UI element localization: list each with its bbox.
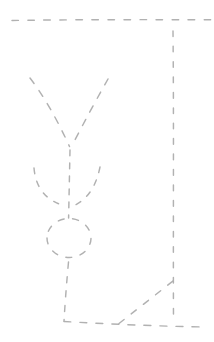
bottom-border-dashed-line — [64, 322, 207, 328]
diagonal-connector-line — [119, 281, 173, 324]
arrowhead-left-barb — [34, 168, 65, 206]
node-circle — [47, 219, 91, 258]
sketch-page — [0, 0, 214, 342]
dashed-sketch-svg — [0, 0, 214, 342]
arrow-shaft-line — [69, 150, 70, 218]
funnel-right-arm — [72, 79, 109, 147]
stem-line — [64, 262, 69, 321]
arrowhead-right-barb — [73, 167, 100, 206]
funnel-left-arm — [30, 78, 70, 147]
top-border-dashed-line — [12, 20, 213, 21]
right-border-dashed-line — [173, 31, 174, 320]
